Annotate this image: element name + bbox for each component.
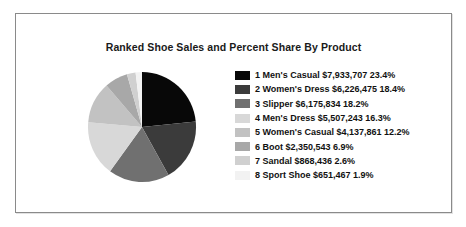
legend-item[interactable]: 4 Men's Dress $5,507,243 16.3% — [235, 111, 445, 125]
pie-chart — [87, 71, 197, 183]
legend-item[interactable]: 7 Sandal $868,436 2.6% — [235, 154, 445, 168]
legend-item-label: 1 Men's Casual $7,933,707 23.4% — [255, 70, 395, 80]
legend-color-swatch — [235, 99, 250, 108]
pie-slice[interactable] — [142, 72, 196, 127]
legend: 1 Men's Casual $7,933,707 23.4%2 Women's… — [235, 68, 445, 182]
chart-frame: Ranked Shoe Sales and Percent Share By P… — [15, 13, 452, 213]
legend-item-label: 4 Men's Dress $5,507,243 16.3% — [255, 113, 391, 123]
legend-item-label: 5 Women's Casual $4,137,861 12.2% — [255, 127, 410, 137]
pie-chart-svg — [87, 71, 197, 183]
legend-item[interactable]: 5 Women's Casual $4,137,861 12.2% — [235, 125, 445, 139]
legend-color-swatch — [235, 171, 250, 180]
legend-item[interactable]: 1 Men's Casual $7,933,707 23.4% — [235, 68, 445, 82]
legend-color-swatch — [235, 71, 250, 80]
legend-color-swatch — [235, 142, 250, 151]
legend-color-swatch — [235, 114, 250, 123]
legend-item[interactable]: 8 Sport Shoe $651,467 1.9% — [235, 168, 445, 182]
page-title: Ranked Shoe Sales and Percent Share By P… — [16, 41, 451, 53]
legend-color-swatch — [235, 128, 250, 137]
legend-item-label: 6 Boot $2,350,543 6.9% — [255, 142, 354, 152]
legend-item[interactable]: 6 Boot $2,350,543 6.9% — [235, 139, 445, 153]
legend-item-label: 2 Women's Dress $6,226,475 18.4% — [255, 84, 405, 94]
pie-slice-group — [88, 72, 196, 182]
legend-item[interactable]: 3 Slipper $6,175,834 18.2% — [235, 97, 445, 111]
legend-item-label: 3 Slipper $6,175,834 18.2% — [255, 99, 369, 109]
legend-item-label: 8 Sport Shoe $651,467 1.9% — [255, 170, 374, 180]
legend-color-swatch — [235, 85, 250, 94]
legend-color-swatch — [235, 156, 250, 165]
legend-item-label: 7 Sandal $868,436 2.6% — [255, 156, 355, 166]
legend-item[interactable]: 2 Women's Dress $6,226,475 18.4% — [235, 82, 445, 96]
